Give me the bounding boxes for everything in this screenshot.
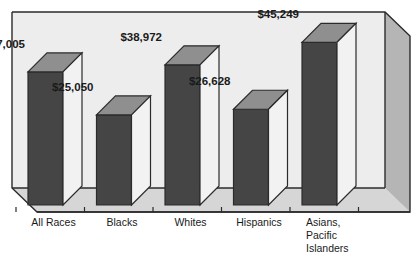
bar-1[interactable] [97, 96, 151, 205]
category-label-4-line-0: Asians, [306, 216, 340, 228]
bar-3[interactable] [234, 90, 288, 205]
category-label-0-line-0: All Races [31, 216, 75, 228]
bar-front-face [302, 42, 337, 205]
bar-side-face [63, 53, 82, 205]
category-labels-layer: All RacesBlacksWhitesHispanicsAsians,Pac… [31, 216, 348, 254]
category-label-2-line-0: Whites [174, 216, 206, 228]
bar-side-face [200, 46, 219, 205]
category-label-1-line-0: Blacks [107, 216, 138, 228]
right-wall-surface [385, 12, 410, 212]
bar-2[interactable] [165, 46, 219, 205]
category-label-3-line-0: Hispanics [236, 216, 282, 228]
bar-4[interactable] [302, 23, 356, 205]
data-label-3: $26,628 [189, 75, 231, 87]
category-label-4-line-1: Pacific [306, 229, 337, 241]
bar-front-face [97, 115, 132, 205]
bar-side-face [132, 96, 151, 205]
data-label-2: $38,972 [120, 31, 162, 43]
bar-side-face [269, 90, 288, 205]
bar-front-face [234, 109, 269, 205]
data-label-0: $37,005 [0, 38, 26, 50]
data-label-1: $25,050 [52, 81, 94, 93]
data-label-4: $45,249 [257, 8, 299, 20]
bar-0[interactable] [28, 53, 82, 205]
chart-canvas: $37,005$25,050$38,972$26,628$45,249 All … [0, 0, 413, 261]
bar-chart-figure: $37,005$25,050$38,972$26,628$45,249 All … [0, 0, 413, 261]
bar-side-face [337, 23, 356, 205]
category-label-4-line-2: Islanders [306, 242, 349, 254]
